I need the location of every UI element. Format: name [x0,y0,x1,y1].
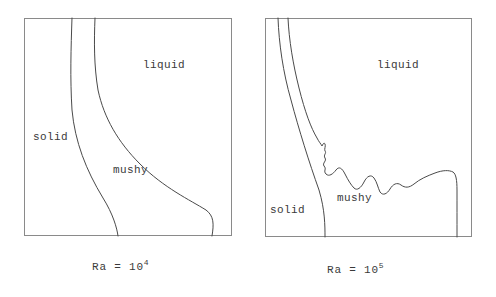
caption-ra5: Ra = 105 [327,261,384,276]
region-label-mushy-ra4: mushy [113,164,148,176]
figure-container: liquid solid mushy Ra = 104 liquid solid… [0,0,496,297]
caption-ra5-base: Ra = 10 [327,264,379,276]
region-label-liquid-ra5: liquid [377,59,419,71]
ra5-mushy-liquid-boundary [288,18,457,237]
caption-ra4: Ra = 104 [92,258,149,273]
caption-ra4-base: Ra = 10 [92,261,144,273]
region-label-solid-ra5: solid [270,204,305,216]
panel-ra4 [24,18,232,236]
panel-ra4-curves [24,18,232,236]
region-label-mushy-ra5: mushy [337,192,372,204]
region-label-liquid-ra4: liquid [143,59,185,71]
caption-ra4-exponent: 4 [144,258,149,267]
ra4-mushy-liquid-boundary [94,18,213,236]
region-label-solid-ra4: solid [33,131,68,143]
caption-ra5-exponent: 5 [379,261,384,270]
